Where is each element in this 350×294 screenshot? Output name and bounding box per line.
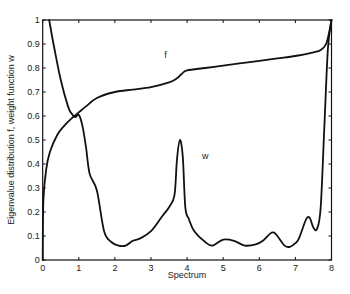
x-tick-label: 8 [329, 263, 334, 273]
y-tick-label: 0 [35, 255, 40, 265]
x-axis-ticks: 012345678 [40, 20, 334, 273]
x-axis-label: Spectrum [168, 270, 207, 280]
y-tick-label: 0.7 [27, 87, 40, 97]
y-tick-label: 0.3 [27, 183, 40, 193]
y-tick-label: 0.5 [27, 135, 40, 145]
y-tick-label: 0.9 [27, 39, 40, 49]
curve-labels: fw [164, 50, 209, 161]
plot-area: 012345678 00.10.20.30.40.50.60.70.80.91 … [27, 15, 334, 273]
x-tick-label: 0 [40, 263, 45, 273]
x-tick-label: 7 [293, 263, 298, 273]
x-tick-label: 3 [148, 263, 153, 273]
curve-label-w: w [201, 151, 209, 161]
curve-label-f: f [164, 50, 167, 60]
axes-frame [43, 20, 332, 260]
x-tick-label: 5 [221, 263, 226, 273]
x-tick-label: 6 [257, 263, 262, 273]
x-tick-label: 1 [76, 263, 81, 273]
y-axis-label: Eigenvalue distribution f, weight functi… [6, 55, 16, 225]
y-tick-label: 0.1 [27, 231, 40, 241]
chart-canvas: 012345678 00.10.20.30.40.50.60.70.80.91 … [0, 0, 350, 294]
series-w-curve [49, 20, 331, 247]
y-tick-label: 0.4 [27, 159, 40, 169]
series-f-curve [43, 20, 332, 260]
y-tick-label: 0.6 [27, 111, 40, 121]
y-tick-label: 0.2 [27, 207, 40, 217]
x-tick-label: 2 [112, 263, 117, 273]
y-tick-label: 0.8 [27, 63, 40, 73]
y-tick-label: 1 [35, 15, 40, 25]
